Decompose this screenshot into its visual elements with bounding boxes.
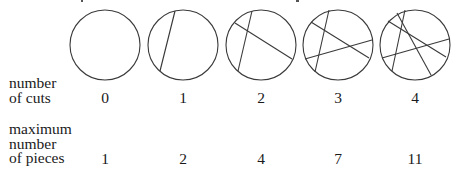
cut-line <box>235 23 292 59</box>
cuts-value: 4 <box>395 90 435 105</box>
cuts-label-line-2: of cuts <box>9 91 56 106</box>
circle-0-cuts <box>70 10 140 80</box>
cut-line <box>388 21 446 57</box>
clipped-text-fragment <box>81 0 83 2</box>
cuts-value: 2 <box>241 90 281 105</box>
pieces-value: 11 <box>395 151 435 166</box>
cut-line <box>305 40 372 59</box>
clipped-text-fragment <box>296 0 299 2</box>
cut-line <box>382 39 449 58</box>
cut-line <box>315 10 329 72</box>
circle-shape <box>70 10 140 80</box>
cuts-value: 1 <box>163 90 203 105</box>
pieces-label-line-3: of pieces <box>9 151 72 166</box>
circle-4-cuts <box>380 10 450 80</box>
circle-3-cuts <box>303 10 373 80</box>
cut-line <box>238 11 252 71</box>
circle-1-cuts <box>148 10 218 80</box>
pieces-value: 7 <box>318 151 358 166</box>
pieces-value: 4 <box>241 151 281 166</box>
circle-shape <box>226 10 296 80</box>
pieces-value: 2 <box>163 151 203 166</box>
circle-2-cuts <box>226 10 296 80</box>
cut-line <box>160 11 175 71</box>
cuts-row-label: number of cuts <box>9 76 56 105</box>
circle-shape <box>303 10 373 80</box>
circle-shape <box>148 10 218 80</box>
cuts-value: 0 <box>85 90 125 105</box>
pieces-value: 1 <box>85 151 125 166</box>
pieces-row-label: maximum number of pieces <box>9 122 72 166</box>
cuts-value: 3 <box>318 90 358 105</box>
cut-line <box>392 10 405 71</box>
